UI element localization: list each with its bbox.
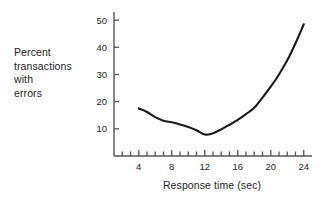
x-axis-tick-labels: 4812162024 — [136, 161, 309, 172]
x-tick-label: 16 — [232, 161, 243, 172]
y-tick-label: 40 — [96, 42, 107, 53]
x-tick-label: 20 — [265, 161, 276, 172]
x-tick-label: 12 — [199, 161, 210, 172]
line-chart-plot: 1020304050 4812162024 — [0, 0, 330, 201]
y-tick-label: 50 — [96, 15, 107, 26]
y-tick-label: 20 — [96, 96, 107, 107]
data-series-line — [139, 24, 304, 134]
y-axis-tick-labels: 1020304050 — [96, 15, 107, 135]
x-axis-title: Response time (sec) — [114, 179, 310, 191]
x-axis-ticks — [122, 150, 304, 156]
x-tick-label: 24 — [298, 161, 309, 172]
axes — [114, 12, 312, 156]
chart-figure: Percent transactions with errors 1020304… — [0, 0, 330, 201]
x-tick-label: 4 — [136, 161, 141, 172]
y-tick-label: 10 — [96, 123, 107, 134]
x-tick-label: 8 — [169, 161, 174, 172]
y-tick-label: 30 — [96, 69, 107, 80]
y-axis-ticks — [114, 20, 119, 129]
